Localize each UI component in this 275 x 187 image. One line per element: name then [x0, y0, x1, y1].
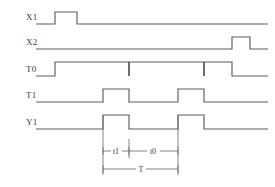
signal-label-x1: X1: [26, 12, 37, 22]
signal-label-x2: X2: [26, 37, 37, 47]
timing-diagram-figure: X1 X2 T0 T1 Y1: [0, 0, 275, 187]
waveform-t1: [36, 89, 268, 102]
signal-label-y1: Y1: [26, 117, 37, 127]
signal-row-x1: X1: [26, 12, 268, 24]
waveform-y1: [36, 115, 268, 129]
waveform-x2: [36, 37, 268, 49]
signal-label-t1: T1: [26, 90, 36, 100]
signal-row-t0: T0: [26, 62, 268, 76]
waveform-t0: [36, 62, 268, 76]
waveform-x1: [36, 12, 268, 24]
dimension-label-t1: t1: [113, 147, 119, 156]
dimension-label-t0: t0: [150, 147, 156, 156]
timing-diagram-canvas: X1 X2 T0 T1 Y1: [0, 0, 275, 187]
dimension-label-T: T: [139, 165, 144, 174]
signal-row-y1: Y1: [26, 115, 268, 129]
dimension-T: T: [103, 165, 178, 174]
signal-row-t1: T1: [26, 89, 268, 102]
dimension-t0: t0: [129, 147, 178, 156]
signal-row-x2: X2: [26, 37, 268, 49]
dimension-t1: t1: [103, 147, 129, 156]
signal-label-t0: T0: [26, 64, 37, 74]
